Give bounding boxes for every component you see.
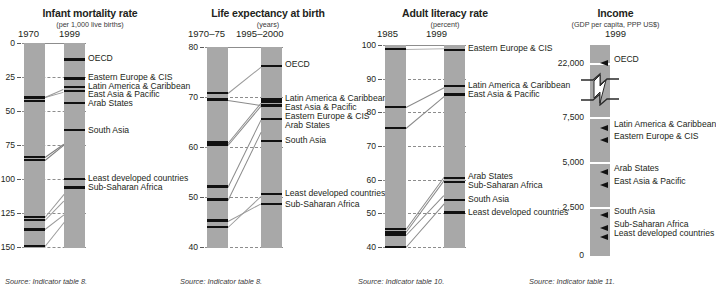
marker-left — [385, 127, 406, 129]
marker-arrow-lac — [600, 125, 608, 131]
series-label-oecd: OECD — [285, 60, 310, 69]
marker-right — [444, 49, 465, 51]
marker-left — [24, 96, 45, 98]
axis-value: 0 — [0, 38, 15, 48]
marker-arrow-ssa — [600, 225, 608, 231]
tick-mark — [378, 45, 382, 46]
marker-right — [64, 77, 85, 79]
connector-eap — [45, 144, 65, 158]
series-label-ssa: Sub-Saharan Africa — [285, 200, 360, 209]
year-label-left: 1985 — [377, 28, 398, 39]
panel-life-expectancy: Life expectancy at birth (years) 1970–75… — [177, 0, 359, 298]
connector-oecd — [228, 67, 262, 94]
year-label-right: 1999 — [59, 28, 80, 39]
source-note: Source: Indicator table 10. — [358, 277, 444, 286]
connector-eeca — [228, 100, 261, 106]
marker-right — [64, 129, 85, 131]
axis-value: 0 — [528, 250, 584, 260]
axis-value: 150 — [0, 242, 15, 252]
connector-lac — [45, 145, 65, 161]
column-1999 — [64, 43, 85, 248]
connector-eeca — [45, 92, 64, 98]
tick-mark — [378, 79, 382, 80]
tick-mark — [378, 247, 382, 248]
connector-lac — [406, 87, 444, 108]
marker-left — [207, 198, 228, 200]
marker-left — [385, 106, 406, 108]
connector-eeca — [406, 48, 444, 50]
column-1999 — [444, 45, 465, 248]
axis-value: 50 — [0, 106, 15, 116]
series-label-arab: Arab States — [285, 121, 330, 130]
tick-mark — [200, 197, 204, 198]
year-label-right: 1995–2000 — [236, 28, 284, 39]
marker-arrow-eap — [600, 182, 608, 188]
marker-right — [261, 65, 282, 67]
series-label-southasia: South Asia — [468, 195, 509, 204]
marker-left — [207, 98, 228, 100]
marker-left — [207, 226, 228, 228]
axis-value: 50 — [174, 192, 198, 202]
tick-mark — [17, 77, 21, 78]
series-label-southasia: South Asia — [88, 126, 129, 135]
marker-right — [261, 140, 282, 142]
marker-left — [385, 246, 406, 248]
tick-mark — [200, 47, 204, 48]
tick-mark — [17, 43, 21, 44]
axis-value: 125 — [0, 208, 15, 218]
source-text: Source: Indicator table 8. — [180, 277, 262, 286]
column-1985 — [385, 45, 406, 248]
axis-value: 70 — [352, 141, 376, 151]
series-label-southasia: South Asia — [614, 207, 655, 216]
axis-value: 60 — [352, 175, 376, 185]
tick-mark — [17, 145, 21, 146]
marker-arrow-ldc — [600, 234, 608, 240]
source-note: Source: Indicator table 8. — [180, 277, 262, 286]
source-text: Source: Indicator table 11. — [529, 277, 615, 286]
year-label-right: 1999 — [528, 28, 703, 39]
column-1970-75 — [207, 47, 228, 248]
year-label-left: 1970 — [18, 28, 39, 39]
series-label-arab: Arab States — [614, 164, 659, 173]
panel-title: Life expectancy at birth — [177, 7, 359, 19]
marker-right — [261, 203, 282, 205]
marker-arrow-eeca — [600, 137, 608, 143]
source-note: Source: Indicator table 8. — [5, 277, 87, 286]
axis-value: 40 — [352, 242, 376, 252]
axis-value: 7,500 — [528, 112, 584, 122]
marker-arrow-oecd — [600, 60, 608, 66]
series-label-arab: Arab States — [88, 99, 133, 108]
axis-value: 80 — [352, 107, 376, 117]
series-label-eeca: Eastern Europe & CIS — [614, 132, 699, 141]
axis-value: 25 — [0, 72, 15, 82]
marker-right — [444, 211, 465, 213]
axis-value: 75 — [0, 140, 15, 150]
marker-right — [64, 186, 85, 188]
tick-mark — [378, 180, 382, 181]
series-label-oecd: OECD — [614, 55, 639, 64]
axis-value: 50 — [352, 208, 376, 218]
axis-value: 70 — [174, 92, 198, 102]
axis-break-icon — [580, 72, 620, 106]
marker-right — [64, 58, 85, 60]
marker-left — [385, 233, 406, 235]
tick-mark — [17, 111, 21, 112]
tick-mark — [17, 213, 21, 214]
marker-right — [261, 118, 282, 120]
panel-adult-literacy: Adult literacy rate (percent) 1985 1999 … — [355, 0, 535, 298]
marker-left — [24, 228, 45, 230]
tick-mark — [200, 147, 204, 148]
axis-value: 40 — [174, 242, 198, 252]
tick-mark — [200, 97, 204, 98]
connector-ssa — [228, 203, 261, 221]
tick-mark — [17, 247, 21, 248]
series-label-ssa: Sub-Saharan Africa — [88, 183, 163, 192]
marker-arrow-arab — [600, 169, 608, 175]
axis-value: 100 — [352, 40, 376, 50]
marker-right — [444, 85, 465, 87]
series-label-ldc: Least developed countries — [614, 229, 714, 238]
axis-band-5000 — [590, 162, 610, 164]
marker-left — [24, 100, 45, 102]
axis-band-7500 — [590, 117, 610, 119]
marker-arrow-southasia — [600, 212, 608, 218]
